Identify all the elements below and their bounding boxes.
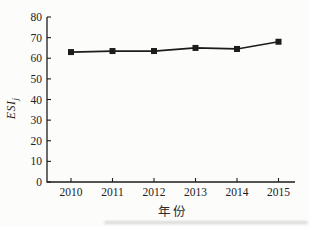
data-point-marker — [110, 48, 116, 54]
x-tick-label: 2013 — [184, 186, 207, 198]
y-tick-label: 60 — [31, 52, 43, 64]
y-axis-label: ESIj — [4, 74, 19, 144]
x-axis-label: 年份 — [47, 201, 299, 220]
cropped-caption-artifact — [104, 221, 308, 224]
data-point-marker — [68, 49, 74, 55]
data-point-marker — [151, 48, 157, 54]
data-point-marker — [193, 45, 199, 51]
line-chart-figure: 0102030405060708020102011201220132014201… — [0, 0, 310, 227]
axes — [47, 17, 295, 182]
x-tick-label: 2014 — [226, 186, 249, 198]
data-point-marker — [276, 39, 282, 45]
x-tick-label: 2012 — [143, 186, 166, 198]
y-tick-label: 70 — [31, 32, 43, 44]
y-tick-label: 0 — [36, 176, 42, 188]
y-tick-label: 20 — [31, 135, 43, 147]
data-point-marker — [234, 46, 240, 52]
y-axis-label-subscript: j — [10, 98, 20, 101]
x-tick-label: 2011 — [101, 186, 124, 198]
y-tick-label: 40 — [31, 94, 43, 106]
y-tick-label: 30 — [31, 114, 43, 126]
series-line — [71, 42, 279, 52]
y-tick-label: 10 — [31, 155, 43, 167]
y-axis-label-base: ESI — [4, 101, 18, 120]
y-tick-label: 50 — [31, 73, 43, 85]
chart-svg: 0102030405060708020102011201220132014201… — [0, 0, 310, 227]
x-tick-label: 2010 — [60, 186, 83, 198]
x-tick-label: 2015 — [267, 186, 290, 198]
y-tick-label: 80 — [31, 11, 43, 23]
